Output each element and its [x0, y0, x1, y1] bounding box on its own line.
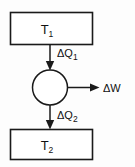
heat-out-label-main: ΔQ	[57, 109, 73, 121]
heat-out-label-sub: 2	[73, 114, 78, 124]
cold-reservoir-label-main: T	[41, 138, 49, 153]
hot-reservoir-label-sub: 1	[49, 29, 54, 39]
hot-reservoir-label-main: T	[41, 22, 49, 37]
work-out-arrow-head	[90, 83, 100, 91]
engine-circle	[33, 70, 68, 105]
heat-out-label: ΔQ2	[57, 109, 78, 124]
heat-engine-diagram: T1 ΔQ1 ΔW ΔQ2 T2	[0, 0, 135, 167]
heat-in-label: ΔQ1	[57, 47, 78, 62]
heat-in-label-sub: 1	[73, 52, 78, 62]
heat-in-label-main: ΔQ	[57, 47, 73, 59]
cold-reservoir-label-sub: 2	[49, 145, 54, 155]
heat-out-arrow-head	[46, 120, 54, 130]
diagram-canvas: T1 ΔQ1 ΔW ΔQ2 T2	[0, 0, 135, 167]
heat-in-arrow-head	[46, 61, 54, 71]
work-out-label: ΔW	[103, 82, 121, 94]
